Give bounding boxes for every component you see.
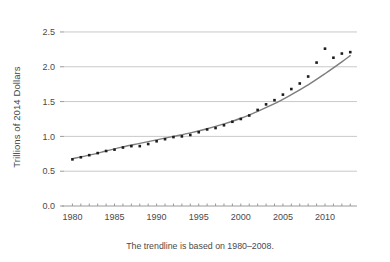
x-tick-label: 1995: [189, 212, 209, 222]
y-tick-label: 0.5: [42, 166, 55, 176]
data-point: [130, 145, 133, 148]
data-point: [223, 124, 226, 127]
data-point: [80, 156, 83, 159]
data-point: [181, 135, 184, 138]
data-point: [240, 118, 243, 121]
data-point: [172, 136, 175, 139]
data-point: [96, 152, 99, 155]
data-point: [290, 88, 293, 91]
chart-caption: The trendline is based on 1980–2008.: [126, 241, 274, 251]
x-tick-label: 2000: [231, 212, 251, 222]
scatter-chart: 0.00.51.01.52.02.5 198019851990199520002…: [0, 0, 390, 262]
trendline: [72, 56, 350, 159]
data-point: [113, 148, 116, 151]
y-tick-label: 2.0: [42, 62, 55, 72]
data-point: [231, 120, 234, 123]
data-point: [265, 103, 268, 106]
y-tick-label: 0.0: [42, 201, 55, 211]
data-point: [332, 56, 335, 59]
y-tick-label-group: 0.00.51.01.52.02.5: [42, 27, 64, 211]
data-point: [315, 61, 318, 64]
x-tick-label-group: 1980198519901995200020052010: [62, 212, 335, 222]
x-tick-label: 1990: [147, 212, 167, 222]
data-point: [349, 51, 352, 54]
y-tick-label: 2.5: [42, 27, 55, 37]
data-point: [324, 47, 327, 50]
data-point: [147, 143, 150, 146]
chart-container: 0.00.51.01.52.02.5 198019851990199520002…: [0, 0, 390, 262]
data-point: [138, 145, 141, 148]
data-point-group: [71, 47, 351, 160]
data-point: [341, 52, 344, 55]
data-point: [88, 154, 91, 157]
data-point: [248, 114, 251, 117]
data-point: [206, 128, 209, 131]
data-point: [307, 75, 310, 78]
y-tick-label: 1.5: [42, 97, 55, 107]
data-point: [273, 99, 276, 102]
data-point: [155, 140, 158, 143]
y-tick-label: 1.0: [42, 132, 55, 142]
x-tick-label: 2005: [273, 212, 293, 222]
data-point: [164, 138, 167, 141]
data-point: [71, 158, 74, 161]
data-point: [189, 134, 192, 137]
data-point: [282, 93, 285, 96]
data-point: [256, 109, 259, 112]
x-tick-label: 1985: [105, 212, 125, 222]
data-point: [214, 127, 217, 130]
data-point: [105, 150, 108, 153]
x-tick-label: 1980: [62, 212, 82, 222]
trendline-path: [72, 56, 350, 159]
data-point: [197, 131, 200, 134]
x-tick-label: 2010: [315, 212, 335, 222]
data-point: [298, 82, 301, 85]
y-axis-title: Trillions of 2014 Dollars: [11, 66, 22, 168]
data-point: [122, 146, 125, 149]
